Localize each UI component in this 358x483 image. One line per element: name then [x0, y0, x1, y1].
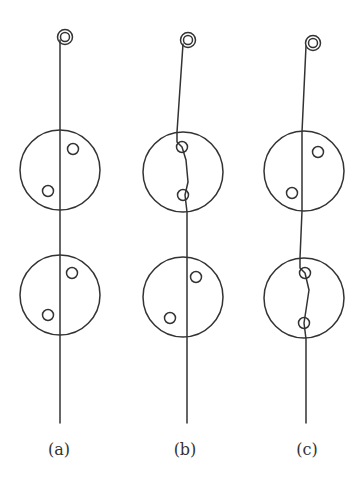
diagram-canvas [0, 0, 358, 483]
suspension-ring-icon [306, 36, 321, 51]
thread-line [300, 46, 309, 423]
hole-icon [313, 147, 324, 158]
hole-icon [287, 188, 298, 199]
hole-icon [178, 190, 189, 201]
disk-upper [264, 131, 344, 211]
panel-label-b: (b) [165, 440, 205, 460]
panel-c [264, 36, 344, 424]
hole-icon [43, 186, 54, 197]
hole-icon [191, 272, 202, 283]
suspension-ring-icon [181, 33, 196, 48]
hole-icon [67, 268, 78, 279]
suspension-ring-icon [58, 30, 73, 45]
hole-icon [165, 313, 176, 324]
three-panel-diagram: (a) (b) (c) [0, 0, 358, 483]
thread-line [177, 44, 188, 423]
hole-icon [68, 144, 79, 155]
panel-b [143, 33, 223, 424]
panel-label-c: (c) [287, 440, 327, 460]
panel-a [20, 30, 100, 424]
disk-upper [143, 132, 223, 212]
panel-label-a: (a) [39, 440, 79, 460]
hole-icon [43, 310, 54, 321]
disk-lower [143, 257, 223, 337]
